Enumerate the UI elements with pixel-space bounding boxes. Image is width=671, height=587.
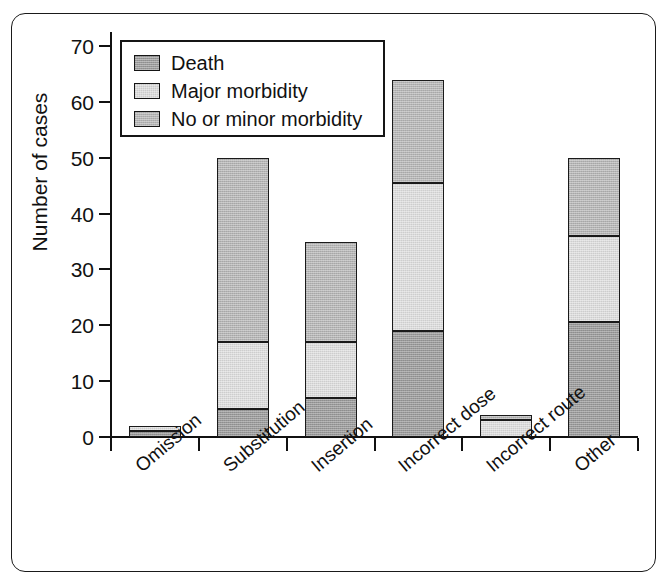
y-axis-tick-label: 50 (50, 147, 94, 168)
x-axis-tick (461, 438, 463, 451)
bar-segment-no-or-minor-morbidity (392, 80, 444, 183)
legend-swatch-icon (134, 111, 160, 127)
x-axis-tick (374, 438, 376, 451)
chart-plot-area: 010203040506070 Number of cases Omission… (0, 0, 671, 587)
bar-incorrect-dose (392, 0, 444, 437)
bar-segment-major-morbidity (392, 183, 444, 331)
y-axis-tick-label: 70 (50, 36, 94, 57)
chart-legend: DeathMajor morbidityNo or minor morbidit… (120, 40, 385, 137)
y-axis-tick-label: 0 (50, 427, 94, 448)
y-axis-tick (99, 324, 111, 326)
legend-swatch-icon (134, 83, 160, 99)
x-axis-tick (286, 438, 288, 451)
legend-item: Major morbidity (134, 77, 373, 105)
y-axis-title: Number of cases (28, 72, 52, 272)
y-axis-line (110, 32, 112, 438)
bar-segment-death (392, 331, 444, 437)
y-axis-tick-label: 10 (50, 371, 94, 392)
x-axis-tick (110, 438, 112, 451)
bar-segment-no-or-minor-morbidity (480, 415, 532, 421)
legend-label: Death (171, 53, 224, 73)
legend-item: Death (134, 49, 373, 77)
legend-label: Major morbidity (171, 81, 308, 101)
bar-segment-no-or-minor-morbidity (305, 242, 357, 343)
bar-segment-no-or-minor-morbidity (568, 158, 620, 236)
bar-segment-major-morbidity (305, 342, 357, 398)
bar-segment-death (568, 322, 620, 437)
bar-incorrect-route (480, 0, 532, 437)
legend-item: No or minor morbidity (134, 105, 373, 133)
y-axis-tick (99, 268, 111, 270)
y-axis-tick (99, 157, 111, 159)
bar-segment-no-or-minor-morbidity (217, 158, 269, 342)
bar-segment-major-morbidity (217, 342, 269, 409)
y-axis-tick-label: 20 (50, 315, 94, 336)
y-axis-tick (99, 380, 111, 382)
legend-label: No or minor morbidity (171, 109, 362, 129)
y-axis-tick (99, 213, 111, 215)
x-axis-tick (198, 438, 200, 451)
x-axis-tick (637, 438, 639, 451)
y-axis-tick (99, 101, 111, 103)
y-axis-tick-label: 40 (50, 203, 94, 224)
y-axis-tick (99, 45, 111, 47)
legend-swatch-icon (134, 55, 160, 71)
y-axis-tick-label: 60 (50, 91, 94, 112)
y-axis-tick-label: 30 (50, 259, 94, 280)
x-axis-tick (549, 438, 551, 451)
bar-segment-major-morbidity (568, 236, 620, 323)
bar-other (568, 0, 620, 437)
